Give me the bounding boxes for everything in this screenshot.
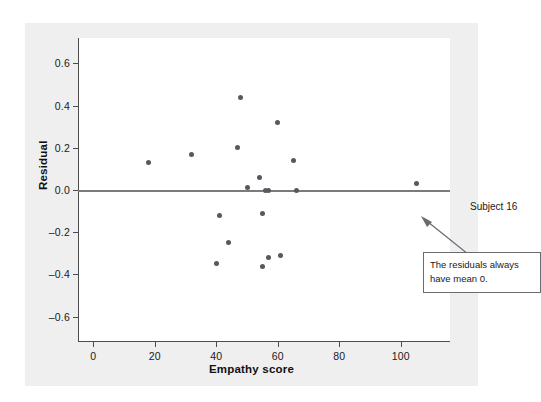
subject-16-label: Subject 16 (470, 201, 517, 212)
data-point (146, 160, 151, 165)
data-point (214, 261, 219, 266)
y-tick (73, 317, 78, 318)
data-point (238, 95, 243, 100)
x-tick-label: 40 (210, 350, 222, 362)
y-tick (73, 190, 78, 191)
x-tick (93, 342, 94, 347)
y-axis-label: Residual (37, 140, 49, 190)
data-point (278, 253, 283, 258)
y-tick-label: 0.2 (55, 142, 70, 154)
data-point (275, 120, 280, 125)
x-tick (155, 342, 156, 347)
plot-area: 0.60.40.20.0–0.2–0.4–0.6 020406080100 Su… (78, 38, 450, 342)
data-point (294, 188, 299, 193)
y-tick-label: 0.6 (55, 57, 70, 69)
x-tick-label: 100 (392, 350, 410, 362)
x-tick-label: 60 (272, 350, 284, 362)
x-tick-label: 20 (149, 350, 161, 362)
y-tick-label: 0.4 (55, 100, 70, 112)
data-point (414, 181, 419, 186)
y-tick (73, 232, 78, 233)
data-point (226, 240, 231, 245)
data-point (291, 158, 296, 163)
x-axis-line (78, 341, 450, 342)
x-tick (401, 342, 402, 347)
y-tick (73, 274, 78, 275)
x-tick-label: 0 (90, 350, 96, 362)
x-tick (278, 342, 279, 347)
data-point (266, 255, 271, 260)
x-tick (339, 342, 340, 347)
x-tick (216, 342, 217, 347)
data-point (260, 264, 265, 269)
x-axis-label: Empathy score (25, 363, 478, 375)
data-point (189, 152, 194, 157)
callout-box: The residuals always have mean 0. (423, 252, 541, 293)
y-tick (73, 63, 78, 64)
data-point (257, 175, 262, 180)
y-tick (73, 148, 78, 149)
y-tick-label: 0.0 (55, 184, 70, 196)
y-tick-label: –0.4 (49, 268, 70, 280)
y-tick-label: –0.2 (49, 226, 70, 238)
data-point (235, 145, 240, 150)
data-point (260, 211, 265, 216)
y-tick (73, 106, 78, 107)
data-point (217, 213, 222, 218)
data-point (266, 188, 271, 193)
chart-panel: Residual Empathy score 0.60.40.20.0–0.2–… (25, 23, 478, 386)
y-tick-label: –0.6 (49, 311, 70, 323)
x-tick-label: 80 (333, 350, 345, 362)
